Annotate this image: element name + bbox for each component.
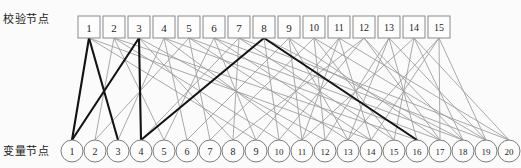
variable-node-label-3: 3 xyxy=(116,146,121,157)
variable-node-label-10: 10 xyxy=(275,147,285,157)
variable-node-label-14: 14 xyxy=(367,147,377,157)
check-nodes-group: 123456789101112131415 xyxy=(78,16,450,38)
graph-edge xyxy=(141,38,239,140)
graph-edge xyxy=(214,38,256,140)
variable-node-label-5: 5 xyxy=(162,146,167,157)
normal-edges-group xyxy=(72,38,509,140)
check-node-label-9: 9 xyxy=(286,22,292,34)
graph-edge xyxy=(264,38,463,140)
graph-edge xyxy=(302,38,339,140)
graph-edge xyxy=(325,38,389,140)
graph-edge xyxy=(239,38,509,140)
variable-node-label-20: 20 xyxy=(505,147,515,157)
graph-edge xyxy=(289,38,302,140)
variable-node-label-1: 1 xyxy=(70,146,75,157)
check-node-label-12: 12 xyxy=(359,22,369,33)
variable-node-label-19: 19 xyxy=(482,147,492,157)
graph-edge xyxy=(95,38,189,140)
tanner-graph-canvas: 123456789101112131415 123456789101112131… xyxy=(0,0,521,168)
graph-edge xyxy=(164,38,440,140)
graph-edge xyxy=(389,38,486,140)
check-node-label-1: 1 xyxy=(86,22,92,34)
graph-edge xyxy=(164,38,302,140)
check-node-label-14: 14 xyxy=(409,22,419,33)
variable-node-label-7: 7 xyxy=(208,146,213,157)
check-node-label-8: 8 xyxy=(261,22,267,34)
check-node-label-10: 10 xyxy=(309,22,319,33)
variable-node-label-2: 2 xyxy=(93,146,98,157)
check-node-label-2: 2 xyxy=(111,22,117,34)
graph-edge xyxy=(314,38,325,140)
check-node-label-11: 11 xyxy=(334,22,344,33)
check-node-label-4: 4 xyxy=(161,22,167,34)
variable-node-label-13: 13 xyxy=(344,147,354,157)
variable-node-label-12: 12 xyxy=(321,147,330,157)
check-node-label-15: 15 xyxy=(434,22,444,33)
variable-node-label-8: 8 xyxy=(231,146,236,157)
check-node-label-5: 5 xyxy=(186,22,192,34)
variable-node-label-11: 11 xyxy=(298,147,307,157)
graph-edge-highlighted xyxy=(72,38,89,140)
graph-edge-highlighted xyxy=(72,38,139,140)
variable-node-label-16: 16 xyxy=(413,147,423,157)
check-node-label-3: 3 xyxy=(136,22,142,34)
variable-nodes-group: 1234567891011121314151617181920 xyxy=(61,140,520,162)
graph-edge-highlighted xyxy=(139,38,141,140)
variable-node-label-9: 9 xyxy=(254,146,259,157)
check-node-label-6: 6 xyxy=(211,22,217,34)
variable-node-label-6: 6 xyxy=(185,146,190,157)
graph-edge xyxy=(139,38,233,140)
check-node-label-7: 7 xyxy=(236,22,242,34)
variable-node-label-17: 17 xyxy=(436,147,446,157)
variable-node-label-18: 18 xyxy=(459,147,469,157)
graph-edge xyxy=(364,38,463,140)
check-node-label-13: 13 xyxy=(384,22,394,33)
graph-edge xyxy=(164,38,187,140)
tanner-graph-figure: 校验节点 变量节点 123456789101112131415 12345678… xyxy=(0,0,521,168)
variable-node-label-15: 15 xyxy=(390,147,400,157)
variable-node-label-4: 4 xyxy=(139,146,144,157)
graph-edge xyxy=(439,38,440,140)
